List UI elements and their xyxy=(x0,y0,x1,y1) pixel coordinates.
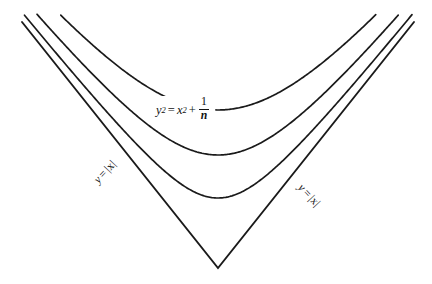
fraction-denominator: n xyxy=(199,110,210,122)
equation-label: y2 = x2 + 1 n xyxy=(152,96,214,124)
equation-fraction: 1 n xyxy=(199,96,210,122)
fraction-numerator: 1 xyxy=(199,96,209,108)
equation-plus: + xyxy=(187,104,198,117)
hyperbola-family xyxy=(25,14,413,198)
math-figure: y2 = x2 + 1 n y=|x| y=|x| xyxy=(0,0,432,284)
equation-y: y xyxy=(156,104,162,117)
asymptote-v-curve xyxy=(22,22,414,268)
hyperbola-curve-3 xyxy=(61,15,376,110)
hyperbola-curve-1 xyxy=(25,15,413,198)
figure-canvas xyxy=(0,0,432,284)
equation-equals: = xyxy=(166,104,177,117)
hyperbola-curve-2 xyxy=(37,14,398,155)
